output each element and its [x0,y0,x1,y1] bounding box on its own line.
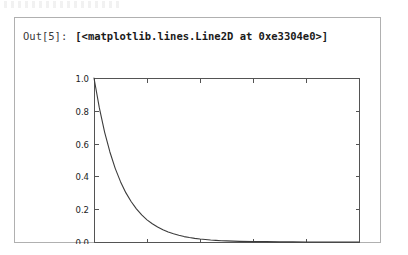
matplotlib-figure: 02468100.00.20.40.60.81.0 [15,48,382,244]
data-series-line [94,78,359,242]
y-tick-label: 0.4 [75,172,89,182]
output-repr-text: [<matplotlib.lines.Line2D at 0xe3304e0>] [75,30,328,42]
y-tick-label: 0.2 [75,205,89,215]
y-tick-label: 1.0 [75,74,89,84]
output-prompt-row: Out[5]: [<matplotlib.lines.Line2D at 0xe… [15,26,380,46]
y-tick-label: 0.0 [75,238,89,245]
notebook-output-cell: Out[5]: [<matplotlib.lines.Line2D at 0xe… [14,17,381,243]
plot-frame [95,79,360,243]
y-tick-label: 0.8 [75,107,89,117]
plot-canvas: 02468100.00.20.40.60.81.0 [15,48,382,244]
y-tick-label: 0.6 [75,140,89,150]
output-prompt-label: Out[5]: [23,30,67,42]
top-clipped-artifact [4,1,120,8]
